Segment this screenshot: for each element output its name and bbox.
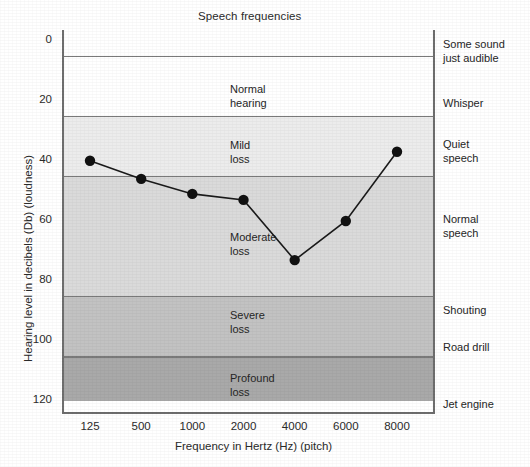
data-point-8000hz: [392, 147, 402, 157]
data-series-layer: [0, 0, 530, 467]
data-point-500hz: [136, 174, 146, 184]
data-point-4000hz: [290, 255, 300, 265]
data-point-6000hz: [341, 216, 351, 226]
data-point-2000hz: [238, 195, 248, 205]
audiogram-chart: Speech frequencies Normal hearingMild lo…: [0, 0, 530, 467]
data-point-125hz: [85, 156, 95, 166]
data-point-1000hz: [187, 189, 197, 199]
series-line-0: [90, 152, 397, 260]
